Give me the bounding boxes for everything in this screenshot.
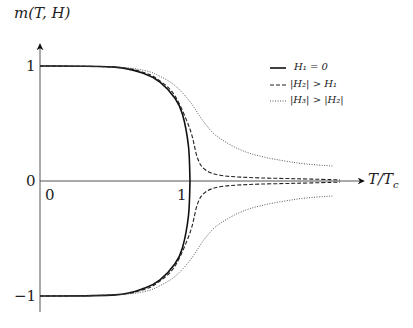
xtick-1: 1 (177, 186, 187, 204)
curve-dotted-upper (40, 66, 333, 166)
curve-solid-upper (40, 66, 190, 181)
legend-item-h3: |H₃| > |H₂| (290, 94, 344, 105)
y-axis-label: m(T, H) (14, 4, 70, 22)
ytick-minus-1: −1 (14, 287, 36, 305)
curve-dotted-lower (40, 196, 333, 296)
curve-solid-lower (40, 181, 190, 296)
ytick-0: 0 (26, 172, 36, 190)
legend-item-h1: H₁ = 0 (294, 61, 328, 72)
plot-area (0, 0, 413, 328)
legend-item-h2: |H₂| > H₁ (290, 78, 337, 89)
ytick-1: 1 (26, 57, 36, 75)
xtick-0: 0 (45, 186, 55, 204)
x-axis-label: T/Tc (368, 170, 399, 190)
